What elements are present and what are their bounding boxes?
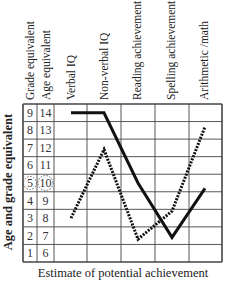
grade-value: 4 bbox=[27, 194, 33, 208]
grade-value: 2 bbox=[27, 229, 33, 243]
grade-value: 8 bbox=[27, 123, 33, 137]
age-value: 13 bbox=[40, 123, 52, 137]
grade-value: 9 bbox=[27, 106, 33, 120]
age-value: 7 bbox=[43, 229, 49, 243]
grade-value: 6 bbox=[27, 158, 33, 172]
age-value: 11 bbox=[40, 158, 52, 172]
grade-value: 5 bbox=[27, 176, 33, 190]
age-value: 12 bbox=[40, 141, 52, 155]
grade-value: 7 bbox=[27, 141, 33, 155]
age-value: 9 bbox=[43, 194, 49, 208]
age-value: 8 bbox=[43, 211, 49, 225]
grade-value: 1 bbox=[27, 246, 33, 260]
age-value: 6 bbox=[43, 246, 49, 260]
chart-grid: 91481371261151049382716 bbox=[0, 0, 225, 282]
x-axis-label: Estimate of potential achievement bbox=[23, 266, 223, 281]
age-value: 10 bbox=[40, 176, 52, 190]
grade-value: 3 bbox=[27, 211, 33, 225]
age-value: 14 bbox=[40, 106, 52, 120]
